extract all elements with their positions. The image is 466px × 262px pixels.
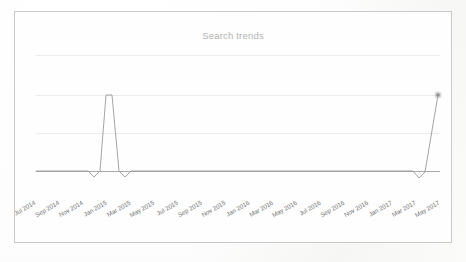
gridlines (36, 55, 440, 171)
x-tick-label: Mar 2016 (248, 199, 275, 218)
search-trends-chart[interactable]: Search trends Jul 2014Sep 2014Nov 2014Ja… (15, 12, 451, 242)
x-tick-label: Mar 2017 (391, 199, 418, 218)
x-tick-label: Mar 2015 (105, 199, 132, 218)
series-line-search-trends (36, 95, 438, 178)
chart-title: Search trends (202, 30, 264, 41)
x-tick-label: Sep 2015 (176, 199, 203, 219)
x-tick-label: May 2015 (128, 199, 156, 219)
x-tick-label: May 2017 (413, 199, 441, 219)
x-tick-label: Jan 2015 (82, 199, 108, 218)
x-tick-label: Sep 2014 (34, 199, 61, 219)
x-tick-label: Nov 2014 (58, 199, 85, 219)
x-tick-label: Jan 2016 (225, 199, 251, 218)
x-tick-label: Nov 2015 (200, 199, 227, 219)
x-tick-label: Jan 2017 (367, 199, 393, 218)
data-series-search-trends[interactable] (36, 91, 442, 178)
end-point-marker[interactable] (436, 93, 439, 96)
x-tick-label: May 2016 (271, 199, 299, 219)
x-tick-label: Jul 2016 (298, 199, 322, 217)
x-tick-label: Jul 2014 (15, 199, 37, 217)
x-tick-label: Nov 2016 (343, 199, 370, 219)
x-tick-label: Sep 2016 (319, 199, 346, 219)
search-trends-chart-card: Search trends Jul 2014Sep 2014Nov 2014Ja… (14, 11, 452, 243)
x-tick-label: Jul 2015 (155, 199, 179, 217)
x-axis-tick-labels: Jul 2014Sep 2014Nov 2014Jan 2015Mar 2015… (15, 199, 441, 219)
